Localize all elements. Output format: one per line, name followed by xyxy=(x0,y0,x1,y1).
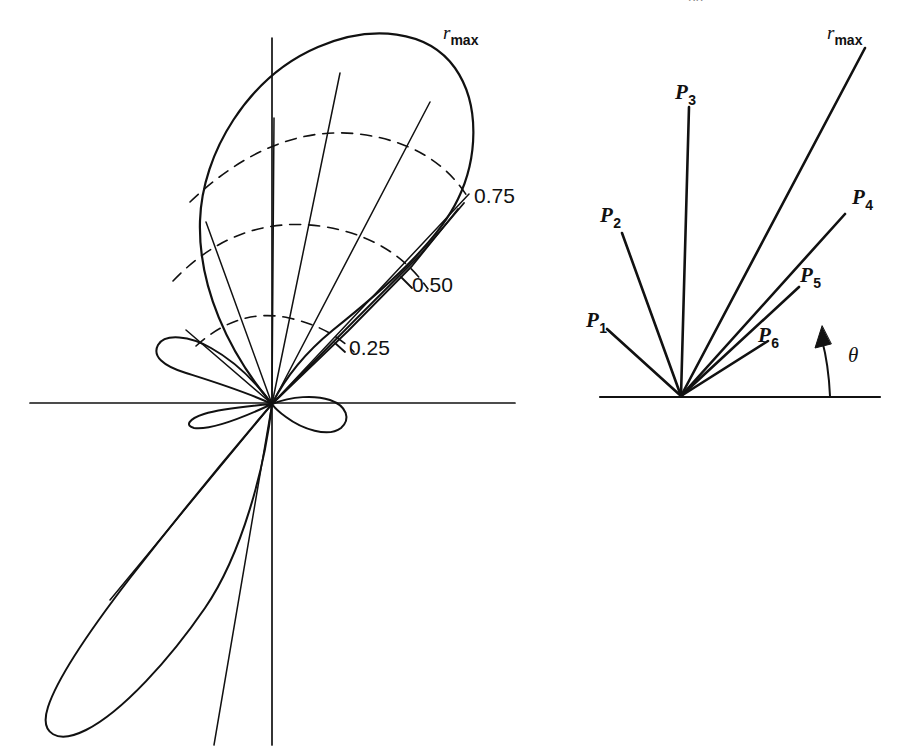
ray-label-p2: P2 xyxy=(600,205,621,230)
p1-symbol: P xyxy=(586,308,599,332)
rmax-right-subscript: max xyxy=(834,32,862,48)
ray-p5 xyxy=(681,287,799,396)
p1-subscript: 1 xyxy=(599,320,607,336)
beam-wedge-tip-a xyxy=(335,343,345,352)
ray-label-p6: P6 xyxy=(758,325,779,350)
theta-arc xyxy=(822,340,830,396)
ray-label-p5: P5 xyxy=(800,265,821,290)
p3-symbol: P xyxy=(675,80,688,104)
beam-wedge-tip-b xyxy=(401,277,412,288)
polar-grid-rays xyxy=(206,73,469,404)
radial-label-0-50: 0.50 xyxy=(412,274,453,295)
radial-label-rmax-left: rmax xyxy=(443,23,478,47)
radial-label-0-75: 0.75 xyxy=(474,185,515,206)
p6-symbol: P xyxy=(758,323,771,347)
ray-p2 xyxy=(622,233,681,396)
p4-subscript: 4 xyxy=(865,197,873,213)
p6-subscript: 6 xyxy=(771,335,779,351)
back-lobe-path xyxy=(46,404,272,737)
rmax-subscript: max xyxy=(450,32,478,48)
origin-stub-down-left xyxy=(110,404,272,600)
p4-symbol: P xyxy=(852,185,865,209)
ray-p3 xyxy=(681,107,689,396)
p5-subscript: 5 xyxy=(813,275,821,291)
ring-0-75 xyxy=(190,133,470,202)
side-lobe-left-lower xyxy=(189,404,272,428)
p2-subscript: 2 xyxy=(613,215,621,231)
p2-symbol: P xyxy=(600,203,613,227)
ray-label-p4: P4 xyxy=(852,187,873,212)
origin-stub-down xyxy=(214,404,272,745)
side-lobes xyxy=(156,337,346,432)
side-lobe-upper-left xyxy=(156,337,272,404)
p3-subscript: 3 xyxy=(688,92,696,108)
ray-label-p1: P1 xyxy=(586,310,607,335)
ray-label-rmax-right: rmax xyxy=(827,23,862,47)
origin-ray-stubs xyxy=(110,330,272,745)
radial-label-0-25: 0.25 xyxy=(349,337,390,358)
theta-label: θ xyxy=(848,345,858,366)
back-lobe xyxy=(46,404,272,737)
figure-canvas xyxy=(0,0,906,756)
ray-label-p3: P3 xyxy=(675,82,696,107)
theta-arrowhead xyxy=(815,326,831,348)
theta-arc-arrow xyxy=(815,326,831,396)
figure-root: pp xyxy=(0,0,906,756)
p5-symbol: P xyxy=(800,263,813,287)
